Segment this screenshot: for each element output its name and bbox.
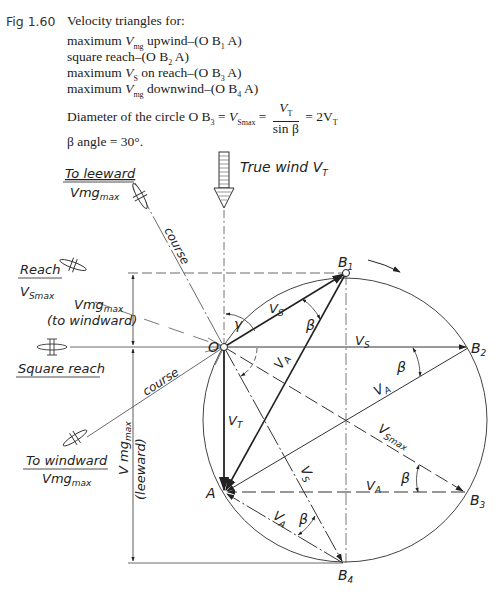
true-wind-label: True wind VT — [240, 159, 329, 178]
beta-arc-b1 — [302, 299, 320, 319]
boat-icon-windward — [59, 425, 90, 452]
velocity-triangle-diagram: True wind VT O A B1 B2 B3 B4 VS VS V — [0, 0, 501, 594]
label-vmg-leeward: V mgmax — [116, 421, 133, 475]
label-va-b2: VA — [371, 378, 393, 400]
label-vs-b4: VS — [296, 463, 318, 484]
label-beta-b3: β — [400, 470, 410, 486]
beta-arc-b3 — [416, 465, 419, 492]
label-reach: Reach — [20, 262, 60, 277]
boat-icon-reach — [57, 254, 88, 277]
label-a: A — [205, 485, 216, 501]
label-vsmax: VSmax — [374, 421, 413, 454]
vector-va-b2 — [227, 348, 468, 491]
label-b1: B1 — [338, 254, 353, 272]
label-beta-b1: β — [305, 317, 315, 333]
point-o — [221, 344, 228, 351]
label-vmg-windward: Vmgmax — [74, 297, 124, 314]
label-vmg-windward-note: (to windward) — [47, 313, 137, 328]
label-b4: B4 — [338, 567, 354, 585]
label-vmg-leeward-note: (leeward) — [133, 438, 148, 500]
label-to-windward-vmg: Vmgmax — [42, 471, 92, 488]
boat-icon-leeward — [127, 180, 153, 211]
beta-arc-b2 — [413, 348, 420, 376]
label-beta-b2: β — [396, 359, 406, 375]
label-b3: B3 — [470, 492, 486, 510]
label-va-b4: VA — [269, 508, 291, 530]
label-b2: B2 — [471, 340, 487, 358]
label-gamma: γ — [234, 316, 243, 332]
label-vt: VT — [228, 413, 244, 430]
label-va-b3: VA — [366, 478, 381, 495]
label-beta-b4: β — [298, 511, 308, 527]
course-label-leeward: course — [161, 225, 192, 267]
label-vs-b2: VS — [355, 333, 370, 350]
label-to-leeward-vmg: Vmgmax — [70, 185, 120, 202]
label-o: O — [208, 339, 219, 355]
boat-icon-square-reach — [37, 339, 67, 355]
label-to-leeward: To leeward — [65, 166, 136, 181]
true-wind-arrow-icon — [214, 152, 234, 208]
label-vs-b1: VS — [269, 301, 284, 318]
rotation-arrow — [368, 260, 400, 272]
vector-vsmax-b3 — [224, 347, 463, 491]
course-label-windward: course — [140, 365, 181, 399]
label-va-b1: VA — [271, 351, 293, 373]
vector-va-b1 — [226, 273, 346, 490]
vector-va-b4 — [227, 494, 343, 563]
label-reach-vsmax: VSmax — [20, 284, 55, 301]
label-to-windward: To windward — [26, 453, 108, 468]
label-square-reach: Square reach — [18, 361, 105, 376]
